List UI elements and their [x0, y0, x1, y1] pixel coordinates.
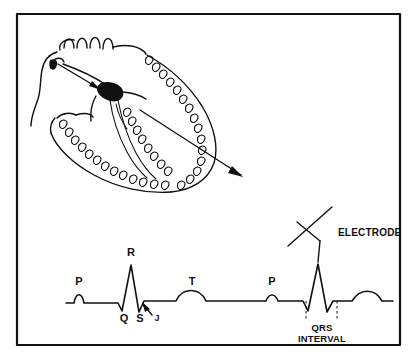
sinoatrial-node — [49, 59, 57, 69]
ecg-waveform — [66, 264, 393, 312]
qrs-interval-label-line2: INTERVAL — [298, 333, 346, 344]
ventricular-apex-outline — [51, 133, 171, 192]
ecg-label-s1: S — [136, 312, 143, 324]
ecg-label-p2: P — [268, 275, 275, 287]
figure-border — [17, 14, 400, 345]
purkinje-fibers-right — [146, 56, 206, 189]
figure-root: P R Q S J T P ELECTRODE QRS INTERVAL — [0, 0, 417, 361]
atrial-top-outline-right — [113, 45, 146, 54]
atrioventricular-node — [97, 82, 123, 101]
sa-to-av-arrow — [58, 64, 101, 90]
ecg-label-t1: T — [189, 275, 196, 287]
heart-cross-section — [31, 38, 243, 193]
ecg-label-q1: Q — [120, 312, 129, 324]
purkinje-fibers-left — [60, 120, 169, 189]
cardiac-conduction-ecg-figure: P R Q S J T P ELECTRODE QRS INTERVAL — [0, 0, 417, 361]
mitral-valve-cusp — [57, 113, 76, 118]
right-ventricle-outer-wall — [147, 55, 216, 192]
ecg-tracing: P R Q S J T P ELECTRODE QRS INTERVAL — [66, 207, 402, 344]
electrode-label: ELECTRODE — [338, 227, 402, 238]
qrs-interval-label-line1: QRS — [311, 322, 332, 333]
av-groove-right — [123, 92, 146, 99]
ecg-label-r1: R — [127, 246, 135, 258]
left-ventricle-wall — [51, 118, 55, 133]
depolarization-vector-arrow — [140, 110, 243, 177]
electrode-leader — [288, 207, 332, 262]
atrial-floor — [63, 64, 108, 86]
ecg-label-j1: J — [154, 313, 159, 323]
ecg-label-p1: P — [75, 275, 82, 287]
